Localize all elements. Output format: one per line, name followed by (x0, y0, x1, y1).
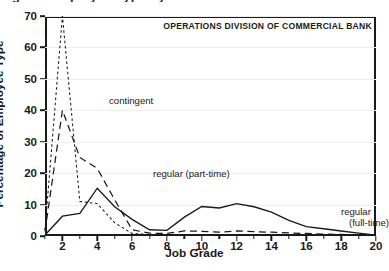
clipped-figure-title: Figure: Employee Type by Job Grade (0, 0, 389, 2)
x-tick-label: 6 (129, 240, 135, 252)
x-tick-mark-major (166, 236, 167, 241)
series-regular-full-time (45, 188, 376, 235)
x-tick-mark-minor (323, 236, 324, 239)
y-tick-mark (40, 172, 45, 174)
x-tick-mark-major (131, 236, 132, 241)
x-tick-mark-minor (253, 236, 254, 239)
x-tick-mark-minor (149, 236, 150, 239)
y-tick-label: 20 (1, 167, 37, 179)
x-tick-mark-major (271, 236, 272, 241)
x-tick-mark-major (340, 236, 341, 241)
x-tick-mark-minor (114, 236, 115, 239)
y-tick-mark (40, 15, 45, 17)
figure-container: Figure: Employee Type by Job Grade Perce… (0, 0, 389, 271)
x-tick-mark-minor (44, 236, 45, 239)
x-tick-label: 16 (300, 240, 313, 252)
x-tick-mark-major (375, 236, 376, 241)
y-tick-label: 40 (1, 104, 37, 116)
series-lines (45, 16, 376, 236)
annotation-regular-full-time: regular (full-time) (341, 206, 389, 228)
y-tick-label: 30 (1, 136, 37, 148)
x-tick-mark-minor (79, 236, 80, 239)
x-tick-label: 12 (230, 240, 243, 252)
annotation-fulltime-line1: regular (341, 206, 371, 217)
x-tick-label: 8 (164, 240, 170, 252)
x-tick-mark-minor (288, 236, 289, 239)
x-tick-label: 14 (265, 240, 278, 252)
x-tick-mark-minor (358, 236, 359, 239)
y-tick-label: 50 (1, 73, 37, 85)
x-tick-mark-major (62, 236, 63, 241)
x-tick-mark-major (201, 236, 202, 241)
y-tick-mark (40, 47, 45, 49)
annotation-contingent: contingent (109, 95, 153, 106)
annotation-regular-part-time: regular (part-time) (153, 168, 230, 179)
y-tick-mark (40, 78, 45, 80)
y-tick-label: 0 (1, 230, 37, 242)
x-tick-label: 2 (59, 240, 65, 252)
y-tick-mark (40, 204, 45, 206)
x-tick-mark-major (97, 236, 98, 241)
y-tick-label: 60 (1, 41, 37, 53)
chart-title: OPERATIONS DIVISION OF COMMERCIAL BANK (163, 21, 372, 31)
y-tick-label: 10 (1, 199, 37, 211)
x-tick-label: 10 (195, 240, 208, 252)
x-tick-mark-major (306, 236, 307, 241)
x-tick-label: 18 (335, 240, 348, 252)
x-tick-mark-minor (219, 236, 220, 239)
x-tick-label: 4 (94, 240, 100, 252)
plot-area: OPERATIONS DIVISION OF COMMERCIAL BANK c… (45, 16, 376, 236)
x-tick-label: 20 (370, 240, 383, 252)
annotation-fulltime-line2: (full-time) (341, 217, 389, 228)
y-axis-label: Percentage of Employee Type (0, 41, 6, 208)
y-tick-mark (40, 109, 45, 111)
x-tick-mark-minor (184, 236, 185, 239)
x-tick-mark-major (236, 236, 237, 241)
y-tick-mark (40, 141, 45, 143)
series-contingent (45, 16, 376, 235)
y-tick-label: 70 (1, 10, 37, 22)
